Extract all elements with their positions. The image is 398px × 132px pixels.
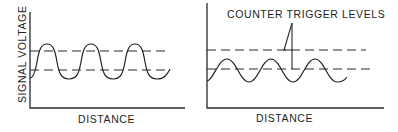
leader-to-upper-level (284, 23, 292, 50)
signal-trigger-diagram: SIGNAL VOLTAGE DISTANCE COUNTER TRIGGER … (0, 0, 398, 132)
left-x-axis-label: DISTANCE (78, 113, 135, 125)
counter-trigger-levels-annotation: COUNTER TRIGGER LEVELS (227, 8, 385, 20)
right-x-axis-label: DISTANCE (256, 112, 313, 124)
left-panel: SIGNAL VOLTAGE DISTANCE (16, 6, 185, 125)
right-panel: COUNTER TRIGGER LEVELS DISTANCE (207, 3, 385, 124)
left-signal-wave (30, 44, 170, 79)
left-axes (30, 12, 185, 108)
trigger-level-leader-lines (284, 23, 292, 69)
left-y-axis-label: SIGNAL VOLTAGE (16, 6, 28, 103)
right-signal-wave (207, 59, 347, 82)
